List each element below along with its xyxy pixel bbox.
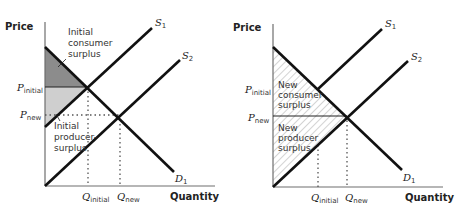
initial-producer-surplus-label: Initial producer- surplus [54,121,100,153]
right-panel: Price Quantity Pinitial Pnew Qinitial Qn… [233,18,454,205]
surplus-diagram: Price Quantity Pinitial Pnew Qinitial Qn… [0,0,462,220]
supply-curve-s1 [318,29,382,89]
p-new-label: Pnew [247,112,269,125]
d1-label: D1 [402,172,416,185]
x-axis-title: Quantity [170,191,219,202]
q-initial-label: Qinitial [311,192,339,205]
q-new-label: Qnew [117,191,140,204]
initial-consumer-surplus-label: Initial consumer surplus [68,27,115,59]
q-initial-label: Qinitial [82,191,110,204]
d1-label: D1 [174,173,188,186]
s1-label: S1 [155,17,166,30]
q-new-label: Qnew [345,192,368,205]
left-panel: Price Quantity Pinitial Pnew Qinitial Qn… [5,17,219,204]
s2-label: S2 [411,51,422,64]
p-initial-label: Pinitial [16,82,43,95]
x-axis-title: Quantity [405,192,454,203]
s2-label: S2 [182,50,193,63]
s1-label: S1 [385,18,396,31]
p-new-label: Pnew [19,109,41,122]
y-axis-title: Price [5,21,34,32]
y-axis-title: Price [233,22,262,33]
p-initial-label: Pinitial [244,84,271,97]
